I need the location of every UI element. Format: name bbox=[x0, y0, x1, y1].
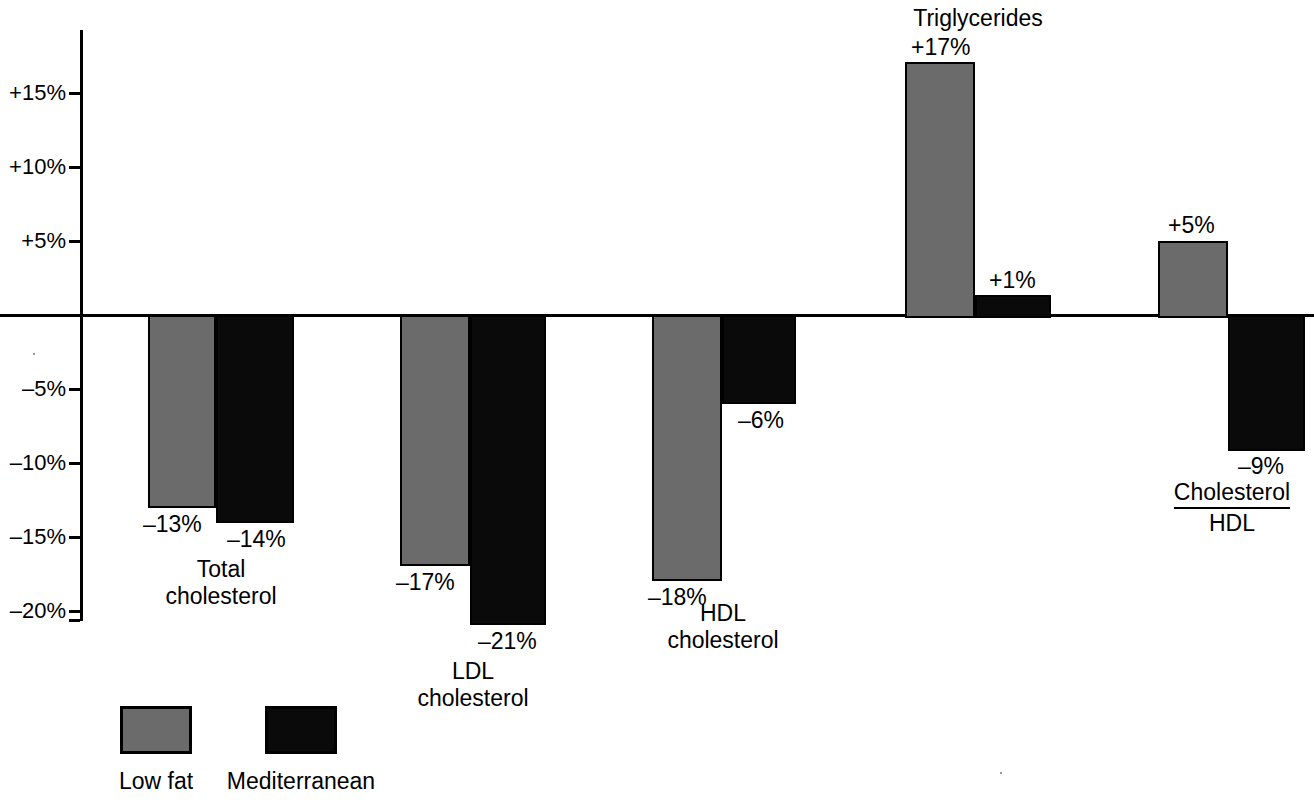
y-tick-label-plus15: +15% bbox=[0, 82, 66, 104]
group-label-total-cholesterol: Total cholesterol bbox=[126, 556, 316, 610]
y-axis-end-cap bbox=[69, 619, 80, 622]
y-tick-mark bbox=[69, 610, 80, 613]
bar-triglycerides-low-fat bbox=[905, 62, 975, 318]
group-label-line-1: Triglycerides bbox=[913, 5, 1043, 31]
value-label-total-cholesterol-low-fat: –13% bbox=[143, 513, 202, 536]
bar-ldl-cholesterol-low-fat bbox=[400, 315, 470, 566]
y-tick-label-minus5: –5% bbox=[0, 378, 66, 400]
value-label-hdl-cholesterol-mediterranean: –6% bbox=[738, 409, 784, 432]
y-tick-label-minus15: –15% bbox=[0, 526, 66, 548]
value-label-total-cholesterol-mediterranean: –14% bbox=[227, 528, 286, 551]
y-tick-label-plus10: +10% bbox=[0, 156, 66, 178]
legend-label-mediterranean: Mediterranean bbox=[227, 768, 375, 794]
y-tick-label-minus20: –20% bbox=[0, 600, 66, 622]
group-label-hdl-cholesterol: HDL cholesterol bbox=[628, 600, 818, 654]
value-label-triglycerides-mediterranean: +1% bbox=[989, 269, 1036, 292]
value-label-triglycerides-low-fat: +17% bbox=[911, 36, 970, 59]
y-tick-mark bbox=[69, 462, 80, 465]
group-label-ldl-cholesterol: LDL cholesterol bbox=[378, 658, 568, 712]
value-label-ldl-cholesterol-low-fat: –17% bbox=[396, 571, 455, 594]
ratio-fraction: Cholesterol HDL bbox=[1174, 479, 1290, 537]
group-label-triglycerides: Triglycerides bbox=[883, 5, 1073, 32]
ratio-denominator: HDL bbox=[1174, 509, 1290, 537]
legend-item-low-fat: Low fat bbox=[120, 706, 192, 754]
bar-hdl-cholesterol-low-fat bbox=[652, 315, 722, 581]
y-tick-label-minus10: –10% bbox=[0, 452, 66, 474]
legend-item-mediterranean: Mediterranean bbox=[265, 706, 337, 754]
y-tick-mark bbox=[69, 166, 80, 169]
group-label-line-2: cholesterol bbox=[417, 685, 528, 711]
value-label-cholesterol-hdl-ratio-low-fat: +5% bbox=[1168, 214, 1215, 237]
bar-total-cholesterol-mediterranean bbox=[216, 315, 294, 523]
group-label-line-2: cholesterol bbox=[667, 627, 778, 653]
y-tick-mark bbox=[69, 92, 80, 95]
value-label-cholesterol-hdl-ratio-mediterranean: –9% bbox=[1238, 455, 1284, 478]
y-tick-mark bbox=[69, 536, 80, 539]
bar-hdl-cholesterol-mediterranean bbox=[722, 315, 796, 404]
y-tick-mark bbox=[69, 240, 80, 243]
y-tick-mark bbox=[69, 388, 80, 391]
ratio-numerator: Cholesterol bbox=[1174, 479, 1290, 509]
group-label-cholesterol-hdl-ratio: Cholesterol HDL bbox=[1152, 479, 1312, 537]
group-label-line-1: HDL bbox=[700, 600, 746, 626]
bar-total-cholesterol-low-fat bbox=[148, 315, 216, 508]
scan-speck bbox=[1000, 772, 1002, 774]
value-label-ldl-cholesterol-mediterranean: –21% bbox=[478, 630, 537, 653]
bar-chart: +15% +10% +5% –5% –10% –15% –20% –13% –1… bbox=[0, 0, 1314, 800]
y-axis-line bbox=[80, 30, 83, 621]
bar-triglycerides-mediterranean bbox=[975, 295, 1051, 318]
scan-speck bbox=[33, 353, 35, 355]
group-label-line-2: cholesterol bbox=[165, 583, 276, 609]
group-label-line-1: LDL bbox=[452, 658, 494, 684]
bar-cholesterol-hdl-ratio-mediterranean bbox=[1228, 315, 1305, 451]
bar-cholesterol-hdl-ratio-low-fat bbox=[1158, 241, 1228, 318]
bar-ldl-cholesterol-mediterranean bbox=[470, 315, 546, 625]
legend-swatch-mediterranean bbox=[265, 706, 337, 754]
group-label-line-1: Total bbox=[197, 556, 246, 582]
legend-swatch-low-fat bbox=[120, 706, 192, 754]
legend-label-low-fat: Low fat bbox=[119, 768, 193, 794]
y-tick-label-plus5: +5% bbox=[0, 230, 66, 252]
